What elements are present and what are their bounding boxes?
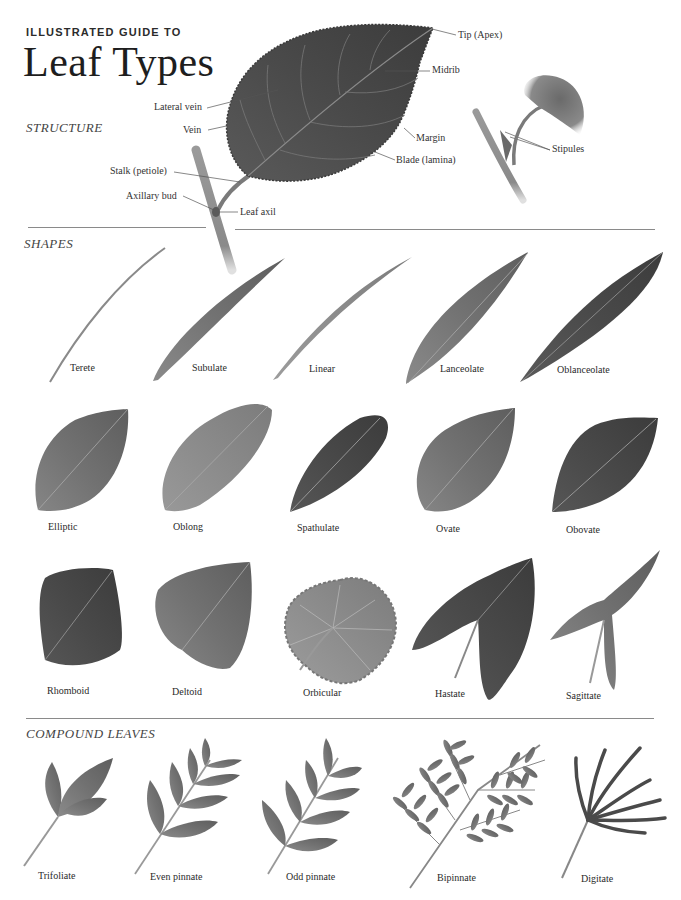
label-stipules: Stipules xyxy=(552,143,584,154)
label-lateral-vein: Lateral vein xyxy=(154,101,202,112)
page-title: Leaf Types xyxy=(23,40,214,84)
shape-caption-linear: Linear xyxy=(309,363,335,374)
structure-leaf xyxy=(196,25,433,271)
shape-caption-terete: Terete xyxy=(70,362,95,373)
section-divider xyxy=(26,718,654,719)
shape-caption-hastate: Hastate xyxy=(435,688,465,699)
shape-caption-rhomboid: Rhomboid xyxy=(47,685,89,696)
section-heading-structure: STRUCTURE xyxy=(26,120,103,136)
label-tip-apex: Tip (Apex) xyxy=(458,29,502,40)
page-kicker: ILLUSTRATED GUIDE TO xyxy=(26,26,182,38)
shape-caption-obovate: Obovate xyxy=(566,524,600,535)
shape-caption-sagittate: Sagittate xyxy=(566,690,601,701)
shape-caption-elliptic: Elliptic xyxy=(48,521,77,532)
section-divider xyxy=(28,227,206,228)
compound-art xyxy=(24,738,665,888)
shape-caption-deltoid: Deltoid xyxy=(172,686,202,697)
compound-caption-trifoliate: Trifoliate xyxy=(38,870,75,881)
compound-caption-bipinnate: Bipinnate xyxy=(437,872,476,883)
label-blade: Blade (lamina) xyxy=(396,154,456,165)
shape-caption-spathulate: Spathulate xyxy=(297,522,339,533)
label-midrib: Midrib xyxy=(432,64,460,75)
label-vein: Vein xyxy=(183,124,201,135)
shape-caption-subulate: Subulate xyxy=(192,362,227,373)
label-stalk-petiole: Stalk (petiole) xyxy=(110,165,167,176)
section-heading-shapes: SHAPES xyxy=(24,236,73,252)
shape-caption-lanceolate: Lanceolate xyxy=(440,363,484,374)
stipule-illustration xyxy=(476,75,584,200)
compound-caption-digitate: Digitate xyxy=(581,873,613,884)
label-axillary-bud: Axillary bud xyxy=(126,190,177,201)
label-leaf-axil: Leaf axil xyxy=(240,206,276,217)
label-margin: Margin xyxy=(416,132,445,143)
section-heading-compound: COMPOUND LEAVES xyxy=(26,726,155,742)
shape-caption-orbicular: Orbicular xyxy=(303,687,341,698)
section-divider xyxy=(235,229,655,230)
shapes-row2-art xyxy=(28,404,658,528)
shape-caption-ovate: Ovate xyxy=(436,523,460,534)
compound-caption-even-pinnate: Even pinnate xyxy=(150,871,202,882)
shape-caption-oblanceolate: Oblanceolate xyxy=(557,364,610,375)
compound-caption-odd-pinnate: Odd pinnate xyxy=(286,871,335,882)
shapes-row3-art xyxy=(32,550,660,700)
shape-caption-oblong: Oblong xyxy=(173,521,203,532)
